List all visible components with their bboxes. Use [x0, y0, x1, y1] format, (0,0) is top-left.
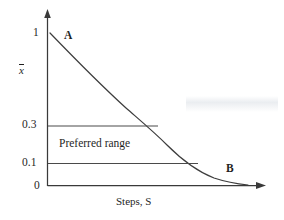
y-tick-label-0-1: 0.1 [22, 157, 37, 169]
chart-canvas [0, 0, 284, 220]
decay-curve [50, 33, 248, 185]
y-axis-title: x [19, 64, 24, 76]
arrow-up-icon [44, 9, 51, 18]
y-tick-label-0-3: 0.3 [22, 119, 37, 131]
arrow-right-icon [256, 182, 266, 189]
y-axis-title-text: x [19, 64, 24, 76]
point-b-label: B [226, 163, 234, 175]
preferred-range-label: Preferred range [59, 138, 130, 150]
chart-figure: 1 0.3 0.1 0 x Steps, S A B Preferred ran… [0, 0, 284, 220]
x-axis-title: Steps, S [116, 196, 151, 207]
y-tick-label-1: 1 [33, 27, 39, 39]
point-a-label: A [64, 30, 72, 42]
y-tick-label-0: 0 [34, 180, 40, 192]
